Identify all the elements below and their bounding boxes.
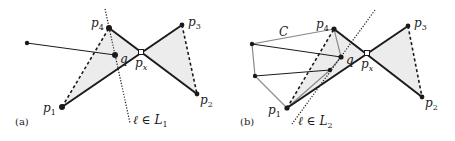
point-p4-b bbox=[331, 26, 336, 31]
point-C-inner-b bbox=[328, 68, 332, 72]
point-C-bottom-b bbox=[253, 74, 257, 78]
point-px-b bbox=[365, 51, 370, 56]
point-p2-b bbox=[420, 95, 425, 100]
point-p4-a bbox=[106, 25, 112, 31]
point-q-a bbox=[112, 52, 118, 58]
label-line-b: ℓ ∈ L2 bbox=[298, 114, 333, 130]
label-p2-a: p2 bbox=[200, 93, 213, 109]
point-p3-a bbox=[180, 23, 185, 28]
point-C-top-b bbox=[250, 42, 254, 46]
label-p1-a: p1 bbox=[43, 101, 56, 117]
point-px-a bbox=[139, 50, 144, 55]
point-left-a bbox=[25, 41, 29, 45]
label-p1-b: p1 bbox=[268, 103, 281, 119]
point-p1-b bbox=[284, 105, 289, 110]
label-q-a: q bbox=[120, 52, 128, 66]
figure-canvas: p4 p3 q px p2 p1 ℓ ∈ L1 (a) bbox=[0, 0, 455, 141]
label-p4-a: p4 bbox=[91, 16, 104, 32]
label-p3-b: p3 bbox=[414, 16, 427, 32]
caption-a: (a) bbox=[15, 116, 29, 127]
label-p3-a: p3 bbox=[188, 15, 201, 31]
label-C-b: C bbox=[279, 25, 288, 39]
label-line-a: ℓ ∈ L1 bbox=[133, 113, 168, 129]
point-p2-a bbox=[195, 92, 200, 97]
label-p2-b: p2 bbox=[425, 96, 438, 112]
panel-a: p4 p3 q px p2 p1 ℓ ∈ L1 (a) bbox=[15, 9, 213, 129]
point-p3-b bbox=[406, 24, 411, 29]
label-p4-b: p4 bbox=[316, 17, 329, 33]
caption-b: (b) bbox=[240, 116, 254, 127]
panel-b: C p4 p3 q px p2 p1 ℓ ∈ L2 (b) bbox=[240, 10, 438, 130]
point-q-b bbox=[338, 54, 343, 59]
point-p1-a bbox=[59, 104, 65, 110]
label-q-b: q bbox=[346, 53, 354, 67]
label-px-a: px bbox=[135, 56, 148, 72]
